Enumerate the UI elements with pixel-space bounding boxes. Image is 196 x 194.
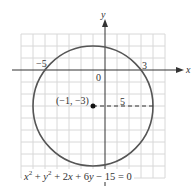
- x-intercept-left-label: −5: [36, 59, 47, 69]
- y-axis-arrow-icon: [102, 19, 108, 27]
- equation-label: x2 + y2 + 2x + 6y − 15 = 0: [22, 169, 134, 182]
- x-intercept-right-label: 3: [142, 61, 147, 71]
- y-axis: [102, 19, 108, 186]
- x-axis-arrow-icon: [176, 67, 184, 73]
- center-label: (−1, −3): [56, 96, 89, 106]
- radius-label: 5: [120, 97, 125, 107]
- center-point: [91, 104, 96, 109]
- origin-label: 0: [96, 73, 101, 83]
- y-axis-label: y: [101, 10, 105, 20]
- x-axis-label: x: [186, 65, 190, 75]
- graph-canvas: [0, 0, 196, 194]
